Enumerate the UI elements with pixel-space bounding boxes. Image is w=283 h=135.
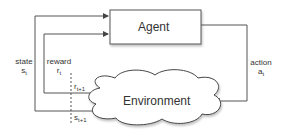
state-text: state bbox=[14, 57, 34, 66]
next-reward-label: rt+1 bbox=[74, 82, 85, 94]
action-subscript: t bbox=[262, 71, 264, 77]
diagram-canvas: Agent Environment state st reward rt act… bbox=[0, 0, 283, 135]
reward-label: reward rt bbox=[46, 57, 72, 78]
state-label: state st bbox=[14, 57, 34, 78]
action-text: action bbox=[248, 58, 274, 67]
reward-text: reward bbox=[46, 57, 72, 66]
state-subscript: t bbox=[25, 70, 27, 76]
next-reward-subscript: t+1 bbox=[77, 86, 86, 92]
next-state-subscript: t+1 bbox=[78, 117, 87, 123]
reward-subscript: t bbox=[60, 70, 62, 76]
environment-label: Environment bbox=[123, 94, 190, 108]
agent-label: Agent bbox=[138, 20, 169, 34]
next-state-label: st+1 bbox=[74, 113, 87, 125]
action-label: action at bbox=[248, 58, 274, 79]
